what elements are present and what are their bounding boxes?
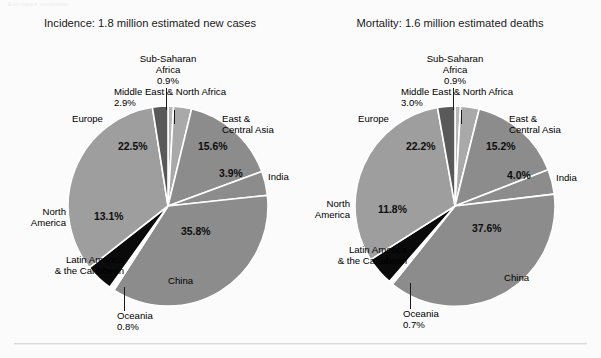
pct-china: 37.6% (472, 223, 501, 234)
pie-incidence: Sub-Saharan Africa 0.9% Middle East & No… (0, 0, 300, 330)
pct-europe: 22.2% (406, 141, 435, 152)
pct-north-america: 13.1% (94, 211, 123, 222)
panel-incidence: Incidence: 1.8 million estimated new cas… (0, 0, 300, 330)
panel-mortality: Mortality: 1.6 million estimated deaths (300, 0, 600, 330)
label-middle-east-north-africa: Middle East & North Africa 3.0% (401, 86, 581, 108)
pct-east-central-asia: 15.6% (198, 141, 227, 152)
pct-north-america: 11.8% (378, 204, 407, 215)
leader-oceania (410, 283, 411, 309)
bottom-divider-shadow (14, 344, 587, 345)
label-latin-america-caribbean: Latin America & the Caribbean (295, 244, 407, 266)
pie-mortality: Sub-Saharan Africa 0.9% Middle East & No… (300, 0, 600, 330)
label-europe: Europe (72, 113, 128, 124)
label-east-central-asia: East & Central Asia (222, 113, 308, 135)
label-north-america: North America (16, 206, 66, 228)
leader-mena (461, 110, 462, 124)
label-europe: Europe (358, 113, 414, 124)
leader-oceania (124, 287, 125, 311)
label-latin-america-caribbean: Latin America & the Caribbean (12, 254, 124, 276)
label-india: India (556, 172, 596, 183)
pct-europe: 22.5% (118, 141, 147, 152)
label-north-america: North America (300, 198, 350, 220)
label-east-central-asia: East & Central Asia (509, 113, 595, 135)
label-sub-saharan-africa: Sub-Saharan Africa 0.9% (128, 53, 208, 86)
pct-china: 35.8% (181, 226, 210, 237)
label-china: China (504, 272, 554, 283)
label-china: China (168, 275, 218, 286)
figure-canvas: Estimated worldwide Incidence: 1.8 milli… (0, 0, 601, 358)
label-sub-saharan-africa: Sub-Saharan Africa 0.9% (415, 53, 495, 86)
pie-incidence-svg (0, 0, 300, 330)
pct-india: 3.9% (219, 168, 243, 179)
pie-mortality-svg (300, 0, 600, 330)
pct-india: 4.0% (507, 170, 531, 181)
label-middle-east-north-africa: Middle East & North Africa 2.9% (114, 86, 294, 108)
leader-mena (174, 110, 175, 124)
label-oceania: Oceania 0.7% (403, 308, 473, 330)
pct-east-central-asia: 15.2% (486, 141, 515, 152)
label-oceania: Oceania 0.8% (117, 310, 187, 332)
